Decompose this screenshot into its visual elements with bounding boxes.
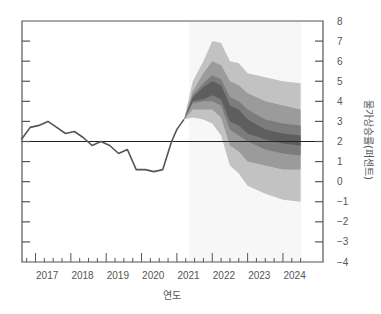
history-line — [21, 119, 184, 171]
y-tick-label: 3 — [337, 116, 343, 127]
y-tick-label: −4 — [337, 257, 349, 268]
y-tick-label: 6 — [337, 56, 343, 67]
x-tick-label: 2021 — [177, 270, 200, 281]
x-tick-label: 2017 — [36, 270, 59, 281]
y-tick-label: 5 — [337, 76, 343, 87]
y-tick-label: 2 — [337, 136, 343, 147]
x-tick-label: 2022 — [213, 270, 236, 281]
x-tick-label: 2019 — [107, 270, 130, 281]
x-tick-label: 2020 — [142, 270, 165, 281]
y-tick-label: 0 — [337, 176, 343, 187]
y-tick-label: 8 — [337, 16, 343, 27]
y-tick-label: −1 — [337, 196, 349, 207]
history-polyline — [21, 119, 184, 171]
y-axis-title: 물가상승률(퍼센트) — [363, 100, 374, 180]
y-tick-label: −3 — [337, 236, 349, 247]
x-tick-label: 2024 — [284, 270, 307, 281]
x-tick-label: 2018 — [71, 270, 94, 281]
x-axis-title: 연도 — [163, 290, 181, 301]
inflation-fan-chart: 876543210−1−2−3−4 2017201820192020202120… — [0, 0, 381, 314]
y-tick-label: 7 — [337, 36, 343, 47]
y-tick-label: −2 — [337, 216, 349, 227]
y-tick-label: 4 — [337, 96, 343, 107]
x-tick-label: 2023 — [248, 270, 271, 281]
y-tick-label: 1 — [337, 156, 343, 167]
